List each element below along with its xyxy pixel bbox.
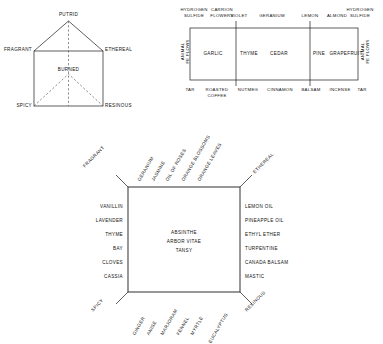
square-right-label-turpentine: TURPENTINE	[245, 246, 278, 252]
odor-prism-svg	[0, 0, 175, 118]
band-inner-label-cedar: CEDAR	[270, 51, 288, 57]
band-inner-label-garlic: GARLIC	[203, 51, 222, 57]
square-left-label-lavender: LAVENDER	[96, 218, 123, 224]
band-bottom-label-text: BALSAM	[301, 87, 320, 92]
band-bottom-label-text: INCENSE	[329, 87, 350, 92]
band-bottom-label-text: NUTMEG	[238, 87, 258, 92]
band-inner-label-thyme: THYME	[240, 51, 258, 57]
square-left-label-thyme: THYME	[105, 232, 123, 238]
band-bottom-label-text: TAR	[185, 87, 194, 92]
prism-vertex-spicy: SPICY	[16, 103, 32, 109]
band-bottom-label-text: TAR	[357, 87, 366, 92]
square-right-label-ethyl-ether: ETHYL ETHER	[245, 232, 280, 238]
band-bottom-label-tar-right: TAR	[351, 87, 373, 93]
square-right-label-mastic: MASTIC	[245, 274, 264, 280]
square-leader-bottom-left	[116, 292, 128, 304]
band-bottom-label-balsam: BALSAM	[296, 87, 326, 93]
square-leader-top-right	[240, 175, 252, 187]
prism-vertex-fragrant: FRAGRANT	[4, 47, 32, 53]
band-top-label-text: LEMON	[302, 13, 319, 18]
band-bottom-label-cinnamon: CINNAMON	[263, 87, 297, 93]
band-top-label-text: HYDROGENSULFIDE	[346, 7, 373, 18]
square-center-label-arbor-vitae: ARBOR VITAE	[167, 239, 201, 245]
prism-vertex-ethereal: ETHEREAL	[105, 47, 132, 53]
square-right-label-canada-balsam: CANADA BALSAM	[245, 260, 288, 266]
square-left-label-cloves: CLOVES	[102, 260, 123, 266]
band-inner-label-pine: PINE	[313, 51, 325, 57]
odor-square-figure: FRAGRANT ETHEREAL SPICY RESINOUS GERANIU…	[60, 118, 383, 344]
square-center-label-absinthe: ABSINTHE	[171, 230, 197, 236]
odor-square-svg	[60, 118, 383, 344]
square-right-label-lemon-oil: LEMON OIL	[245, 204, 273, 210]
prism-vertex-resinous: RESINOUS	[105, 103, 132, 109]
square-center-label-tansy: TANSY	[176, 248, 193, 254]
band-top-label-text: HYDROGENSULFIDE	[180, 7, 207, 18]
band-top-label-hydrogen-sulfide-right: HYDROGENSULFIDE	[343, 7, 377, 18]
band-right-label-animal: ANIMALFE FLOWS	[360, 33, 371, 69]
band-top-label-geranium: GERANIUM	[254, 13, 290, 19]
band-top-label-text: GERANIUM	[259, 13, 285, 18]
square-left-label-cassia: CASSIA	[104, 274, 123, 280]
band-right-label-text: ANIMALFE FLOWS	[360, 39, 370, 63]
odor-prism-figure: PUTRID FRAGRANT ETHEREAL BURNED SPICY RE…	[0, 0, 175, 118]
odor-band-figure: HYDROGENSULFIDE CARRIONFLOWERS VIOLET GE…	[175, 0, 383, 118]
band-top-label-text: VIOLET	[230, 13, 247, 18]
band-bottom-label-roasted-coffee: ROASTEDCOFFEE	[201, 87, 233, 98]
band-left-label-text: ANIMALFE FLOWS	[180, 39, 190, 63]
band-bottom-label-tar-left: TAR	[179, 87, 201, 93]
square-right-label-pineapple-oil: PINEAPPLE OIL	[245, 218, 284, 224]
square-leader-top-left	[116, 175, 128, 187]
band-top-label-violet: VIOLET	[224, 13, 254, 19]
prism-vertex-burned: BURNED	[58, 67, 80, 73]
square-left-label-bay: BAY	[113, 246, 123, 252]
band-bottom-label-text: CINNAMON	[267, 87, 293, 92]
band-bottom-label-text: ROASTEDCOFFEE	[206, 87, 229, 98]
band-inner-label-grapefruit: GRAPEFRUIT	[329, 51, 362, 57]
prism-vertex-putrid: PUTRID	[59, 12, 78, 18]
band-bottom-label-nutmeg: NUTMEG	[233, 87, 263, 93]
band-left-label-animal: ANIMALFE FLOWS	[180, 33, 191, 69]
square-left-label-vanillin: VANILLIN	[100, 204, 123, 210]
